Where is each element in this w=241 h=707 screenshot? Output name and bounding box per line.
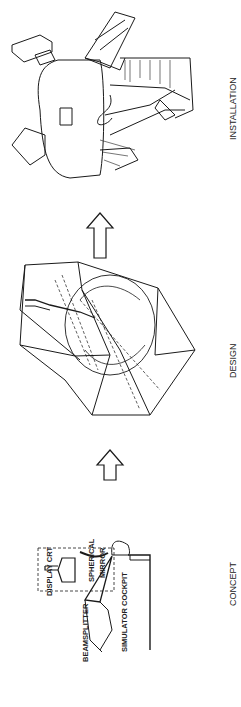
design-illustration [20,262,195,415]
callout-spherical-mirror: SPHERICAL [87,538,96,582]
arrow-up-icon [87,213,113,258]
diagram-canvas: INSTALLATION DESIGN [0,0,241,707]
stage-label-concept: CONCEPT [228,561,238,606]
stage-label-installation: INSTALLATION [228,77,238,140]
callout-beamsplitter: BEAMSPLITTER [81,603,90,662]
stage-label-design: DESIGN [228,343,238,378]
callout-simulator-cockpit: SIMULATOR COCKPIT [120,572,129,652]
arrow-up-icon [97,450,123,480]
callout-display-crt: DISPLAY CRT [45,546,54,596]
callout-spherical-mirror-line2: MIRROR [98,547,107,578]
installation-illustration [12,12,193,178]
